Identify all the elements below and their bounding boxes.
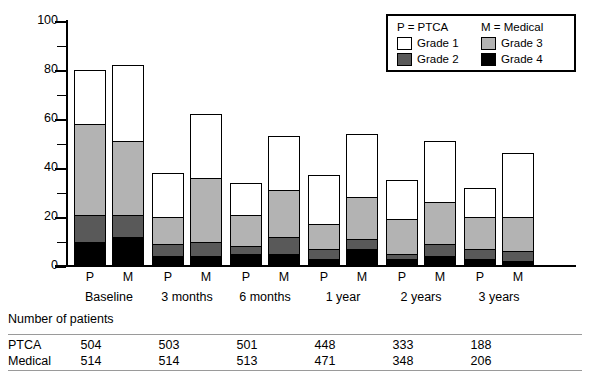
table-cell: 206 — [451, 354, 511, 368]
legend-swatch-grade-4-icon — [481, 53, 496, 66]
bar-segment-grade-4 — [502, 261, 534, 266]
y-tick-major — [55, 119, 66, 121]
table-row-label: Medical — [8, 354, 51, 368]
bar-segment-grade-2 — [464, 249, 496, 259]
legend-label-grade-2: Grade 2 — [417, 53, 459, 66]
table-cell: 504 — [61, 338, 121, 352]
y-tick-minor — [57, 95, 66, 96]
y-tick-major — [55, 70, 66, 72]
y-tick-label: 40 — [44, 161, 58, 173]
bar-3-months-medical — [190, 21, 222, 266]
bar-segment-grade-4 — [386, 259, 418, 266]
bar-segment-grade-2 — [502, 251, 534, 261]
y-tick-major — [55, 266, 66, 268]
y-axis-tick-labels: 020406080100 — [0, 0, 66, 365]
table-rule-top — [8, 334, 582, 335]
y-tick-label: 20 — [44, 210, 58, 222]
bar-segment-grade-3 — [346, 197, 378, 239]
bar-segment-grade-3 — [74, 124, 106, 215]
bar-segment-grade-1 — [268, 136, 300, 190]
legend-row-1: Grade 1 Grade 3 — [397, 37, 567, 50]
bar-segment-grade-4 — [346, 249, 378, 266]
x-tick-label-m: M — [112, 270, 144, 284]
bar-segment-grade-3 — [268, 190, 300, 237]
bar-segment-grade-3 — [308, 224, 340, 249]
bar-segment-grade-2 — [346, 239, 378, 249]
table-cell: 514 — [61, 354, 121, 368]
y-tick-label: 80 — [44, 63, 58, 75]
legend-header: P = PTCA M = Medical — [397, 21, 567, 34]
bar-segment-grade-4 — [112, 237, 144, 266]
table-cell: 513 — [217, 354, 277, 368]
legend-swatch-grade-1-icon — [397, 37, 412, 50]
legend-label-grade-4: Grade 4 — [501, 53, 543, 66]
bar-segment-grade-2 — [268, 237, 300, 254]
table-cell: 448 — [295, 338, 355, 352]
legend-row-2: Grade 2 Grade 4 — [397, 53, 567, 66]
table-cell: 471 — [295, 354, 355, 368]
bar-segment-grade-2 — [190, 242, 222, 257]
legend-item-grade-2: Grade 2 — [397, 53, 481, 66]
legend-label-grade-3: Grade 3 — [501, 37, 543, 50]
bar-segment-grade-4 — [190, 256, 222, 266]
bar-segment-grade-2 — [424, 244, 456, 256]
y-tick-minor — [57, 144, 66, 145]
x-axis-pm-labels: PMPMPMPMPMPM — [0, 270, 590, 286]
legend-item-grade-4: Grade 4 — [481, 53, 565, 66]
x-tick-label-m: M — [502, 270, 534, 284]
bar-segment-grade-1 — [386, 180, 418, 219]
x-axis-group-labels: Baseline3 months6 months1 year2 years3 y… — [0, 290, 590, 306]
y-tick-label: 100 — [37, 14, 58, 26]
bar-segment-grade-3 — [464, 217, 496, 249]
x-tick-label-m: M — [190, 270, 222, 284]
legend-header-medical: M = Medical — [481, 21, 543, 34]
bar-6-months-medical — [268, 21, 300, 266]
bar-segment-grade-1 — [74, 70, 106, 124]
legend-item-grade-3: Grade 3 — [481, 37, 565, 50]
bar-Baseline-ptca — [74, 21, 106, 266]
table-cell: 188 — [451, 338, 511, 352]
bar-segment-grade-1 — [112, 65, 144, 141]
bar-segment-grade-1 — [152, 173, 184, 217]
x-tick-label-p: P — [386, 270, 418, 284]
bar-segment-grade-3 — [424, 202, 456, 244]
bar-segment-grade-3 — [502, 217, 534, 251]
x-tick-label-m: M — [346, 270, 378, 284]
y-tick-minor — [57, 242, 66, 243]
bar-segment-grade-1 — [230, 183, 262, 215]
x-tick-label-m: M — [424, 270, 456, 284]
y-tick-major — [55, 21, 66, 23]
x-tick-label-p: P — [464, 270, 496, 284]
bar-3-months-ptca — [152, 21, 184, 266]
bar-segment-grade-1 — [346, 134, 378, 198]
y-tick-minor — [57, 193, 66, 194]
table-row: PTCA504503501448333188 — [8, 338, 582, 354]
legend-label-grade-1: Grade 1 — [417, 37, 459, 50]
table-cell: 348 — [373, 354, 433, 368]
bar-6-months-ptca — [230, 21, 262, 266]
bar-segment-grade-2 — [230, 246, 262, 253]
bar-segment-grade-4 — [424, 256, 456, 266]
bar-segment-grade-3 — [112, 141, 144, 215]
table-cell: 501 — [217, 338, 277, 352]
legend-header-ptca: P = PTCA — [397, 21, 481, 34]
chart-legend: P = PTCA M = Medical Grade 1 Grade 3 Gra… — [386, 14, 576, 72]
y-tick-label: 60 — [44, 112, 58, 124]
bar-segment-grade-1 — [464, 188, 496, 217]
table-cell: 514 — [139, 354, 199, 368]
bar-1-year-ptca — [308, 21, 340, 266]
bar-segment-grade-3 — [230, 215, 262, 247]
bar-Baseline-medical — [112, 21, 144, 266]
x-tick-label-p: P — [308, 270, 340, 284]
bar-segment-grade-1 — [308, 175, 340, 224]
bar-segment-grade-4 — [230, 254, 262, 266]
legend-swatch-grade-3-icon — [481, 37, 496, 50]
bar-segment-grade-3 — [386, 219, 418, 253]
bar-segment-grade-4 — [308, 259, 340, 266]
bar-segment-grade-4 — [74, 242, 106, 267]
x-tick-label-p: P — [152, 270, 184, 284]
bar-segment-grade-1 — [190, 114, 222, 178]
bar-segment-grade-2 — [112, 215, 144, 237]
bar-segment-grade-1 — [502, 153, 534, 217]
